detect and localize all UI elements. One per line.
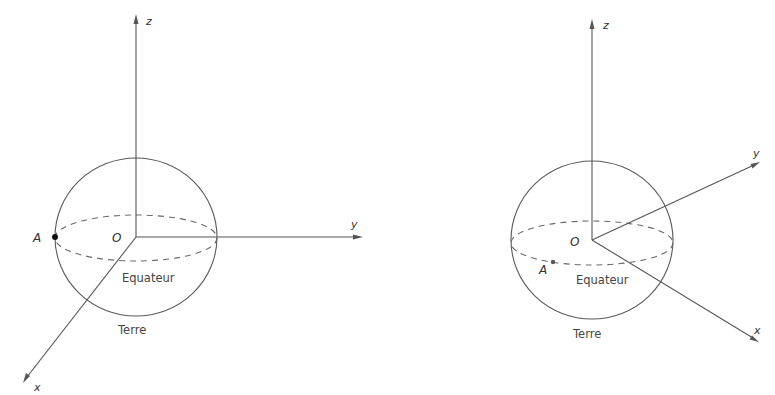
- earth-label: Terre: [572, 327, 601, 341]
- y-axis-arrow-icon: [751, 162, 761, 169]
- figure-left: z y x O A Equateur Terre: [23, 14, 363, 394]
- z-axis-arrow-icon: [134, 14, 139, 24]
- diagram-canvas: z y x O A Equateur Terre z y: [0, 0, 775, 395]
- point-a-label: A: [32, 231, 41, 245]
- origin-label: O: [570, 235, 579, 249]
- origin-label: O: [112, 231, 121, 245]
- y-axis-arrow-icon: [353, 235, 363, 240]
- point-a-marker: [52, 234, 58, 240]
- x-axis-label: x: [753, 324, 761, 337]
- point-a-label: A: [538, 263, 547, 277]
- y-axis: [592, 165, 754, 240]
- earth-label: Terre: [117, 323, 146, 337]
- point-a-marker: [551, 260, 555, 264]
- equator-label: Equateur: [576, 273, 629, 287]
- y-axis-label: y: [350, 218, 358, 231]
- equator-label: Equateur: [122, 271, 175, 285]
- z-axis-label: z: [602, 19, 609, 32]
- figure-right: z y x O A Equateur Terre: [511, 19, 761, 342]
- z-axis-arrow-icon: [590, 19, 595, 29]
- x-axis-label: x: [33, 381, 41, 394]
- z-axis-label: z: [145, 15, 152, 28]
- y-axis-label: y: [752, 147, 760, 160]
- x-axis: [27, 237, 136, 377]
- x-axis: [592, 240, 753, 338]
